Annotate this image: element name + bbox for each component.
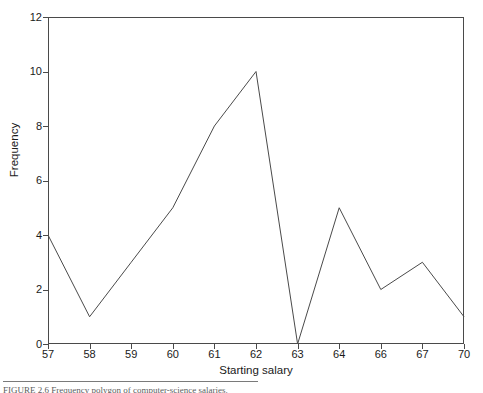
frequency-polygon-line <box>48 17 464 344</box>
x-axis-tick-label: 57 <box>42 349 54 360</box>
y-axis-tick <box>43 72 48 73</box>
x-axis-title: Starting salary <box>48 364 464 376</box>
x-axis-tick-label: 60 <box>167 349 179 360</box>
y-axis-tick-label: 8 <box>36 121 42 132</box>
x-axis-tick-label: 59 <box>125 349 137 360</box>
x-axis-tick-label: 63 <box>291 349 303 360</box>
x-axis-tick-label: 61 <box>208 349 220 360</box>
x-axis-tick-label: 58 <box>83 349 95 360</box>
y-axis-tick <box>43 126 48 127</box>
y-axis-tick <box>43 290 48 291</box>
x-axis-tick-label: 64 <box>333 349 345 360</box>
y-axis-tick <box>43 17 48 18</box>
x-axis-tick-label: 66 <box>375 349 387 360</box>
figure-container: 024681012 Frequency 57585960616263646667… <box>0 0 483 393</box>
y-axis-tick-labels: 024681012 <box>26 17 42 344</box>
x-axis-tick-label: 62 <box>250 349 262 360</box>
y-axis-tick <box>43 181 48 182</box>
figure-caption: FIGURE 2.6 Frequency polygon of computer… <box>3 384 303 393</box>
y-axis-tick-label: 2 <box>36 284 42 295</box>
caption-divider <box>3 381 258 382</box>
y-axis-tick-label: 4 <box>36 230 42 241</box>
y-axis-tick <box>43 235 48 236</box>
y-axis-tick-label: 6 <box>36 175 42 186</box>
x-axis-tick-labels: 5758596061626364666770 <box>48 349 464 363</box>
y-axis-tick-label: 10 <box>30 66 42 77</box>
x-axis-tick-label: 70 <box>458 349 470 360</box>
y-axis-title: Frequency <box>8 90 20 210</box>
y-axis-tick-label: 12 <box>30 12 42 23</box>
series-polyline <box>48 72 464 345</box>
plot-area <box>48 17 464 344</box>
x-axis-tick-label: 67 <box>416 349 428 360</box>
